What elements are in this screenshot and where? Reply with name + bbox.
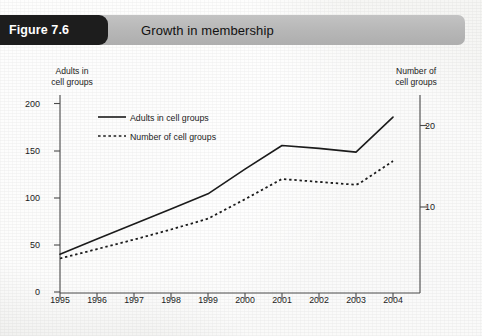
series-number-of-cell-groups: [60, 161, 393, 258]
chart-canvas: [0, 55, 482, 336]
left-axis-ticks: [54, 104, 60, 293]
figure-title: Growth in membership: [141, 15, 274, 45]
x-axis-ticks: [60, 293, 393, 299]
figure-number-badge: Figure 7.6: [0, 15, 108, 45]
line-chart: Adults in cell groups Number of cell gro…: [0, 55, 482, 336]
series-adults-in-cell-groups: [60, 117, 393, 254]
figure-header: Figure 7.6 Growth in membership: [0, 15, 465, 45]
right-axis-ticks: [420, 126, 427, 208]
